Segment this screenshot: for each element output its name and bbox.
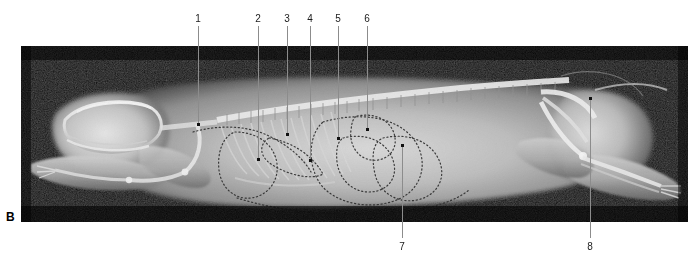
label-3: 3 <box>281 14 293 24</box>
label-5: 5 <box>332 14 344 24</box>
leader-dot-3 <box>286 133 289 136</box>
leader-line-8 <box>590 99 591 238</box>
label-2: 2 <box>252 14 264 24</box>
label-1: 1 <box>192 14 204 24</box>
leader-dot-2 <box>257 158 260 161</box>
leader-dot-7 <box>401 144 404 147</box>
leader-line-6 <box>367 26 368 130</box>
figure-panel: B <box>0 0 699 267</box>
label-7: 7 <box>396 242 408 252</box>
leader-line-7 <box>402 146 403 238</box>
leader-line-5 <box>338 26 339 139</box>
leader-line-3 <box>287 26 288 135</box>
leader-dot-8 <box>589 97 592 100</box>
leader-dot-1 <box>197 123 200 126</box>
label-8: 8 <box>584 242 596 252</box>
radiograph-svg <box>21 46 688 222</box>
leader-line-2 <box>258 26 259 160</box>
label-4: 4 <box>304 14 316 24</box>
label-6: 6 <box>361 14 373 24</box>
leader-line-1 <box>198 26 199 125</box>
leader-line-4 <box>310 26 311 161</box>
radiograph-image <box>21 46 688 222</box>
leader-dot-5 <box>337 137 340 140</box>
leader-dot-4 <box>309 159 312 162</box>
leader-dot-6 <box>366 128 369 131</box>
panel-letter-b: B <box>6 211 15 223</box>
